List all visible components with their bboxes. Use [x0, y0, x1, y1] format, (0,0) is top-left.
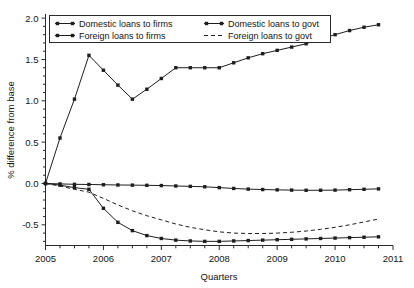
chart-legend: Domestic loans to firms Domestic loans t… — [50, 16, 331, 43]
y-tick-label: -0.5 — [22, 219, 38, 230]
series-marker-0 — [261, 52, 264, 55]
series-marker-1 — [131, 183, 134, 186]
series-marker-1 — [160, 184, 163, 187]
series-marker-1 — [203, 185, 206, 188]
series-marker-2 — [87, 188, 90, 191]
x-tick-label: 2010 — [325, 253, 346, 264]
series-marker-2 — [290, 238, 293, 241]
x-tick-label: 2011 — [383, 253, 403, 264]
series-marker-0 — [290, 45, 293, 48]
series-marker-2 — [174, 238, 177, 241]
legend-swatch-marker-0 — [71, 22, 74, 25]
chart-figure: 2.01.51.00.50.0-0.5 20052006200720082009… — [0, 0, 414, 288]
legend-swatch-marker-1 — [220, 22, 223, 25]
series-marker-0 — [218, 66, 221, 69]
series-marker-0 — [102, 69, 105, 72]
series-marker-2 — [261, 238, 264, 241]
series-marker-0 — [116, 83, 119, 86]
legend-item-domestic-loans-to-firms: Domestic loans to firms — [79, 19, 173, 29]
series-marker-1 — [319, 189, 322, 192]
y-tick-label: 0.5 — [25, 137, 38, 148]
series-marker-0 — [203, 66, 206, 69]
series-marker-2 — [145, 234, 148, 237]
series-marker-2 — [203, 240, 206, 243]
y-tick-label: 0.0 — [25, 178, 38, 189]
series-marker-0 — [73, 97, 76, 100]
legend-swatch-marker-1 — [205, 22, 208, 25]
series-marker-1 — [290, 188, 293, 191]
series-marker-1 — [232, 187, 235, 190]
series-marker-2 — [131, 229, 134, 232]
series-marker-0 — [174, 66, 177, 69]
series-marker-2 — [348, 236, 351, 239]
series-marker-2 — [362, 236, 365, 239]
series-marker-0 — [160, 77, 163, 80]
series-marker-1 — [73, 183, 76, 186]
x-tick-label: 2005 — [35, 253, 56, 264]
series-marker-2 — [160, 237, 163, 240]
series-marker-2 — [377, 235, 380, 238]
legend-swatch-marker-2 — [71, 34, 74, 37]
series-marker-0 — [333, 33, 336, 36]
series-marker-0 — [377, 23, 380, 26]
series-marker-1 — [116, 183, 119, 186]
x-tick-label: 2008 — [209, 253, 230, 264]
series-marker-0 — [348, 29, 351, 32]
x-tick-label: 2006 — [93, 253, 114, 264]
series-marker-0 — [362, 26, 365, 29]
legend-swatch-marker-2 — [56, 34, 59, 37]
y-axis-label: % difference from base — [5, 81, 16, 179]
series-marker-0 — [58, 136, 61, 139]
series-marker-0 — [145, 88, 148, 91]
series-marker-2 — [333, 236, 336, 239]
y-tick-label: 1.5 — [25, 54, 38, 65]
series-marker-1 — [275, 188, 278, 191]
legend-item-foreign-loans-to-govt: Foreign loans to govt — [228, 31, 313, 41]
series-marker-1 — [304, 189, 307, 192]
legend-item-foreign-loans-to-firms: Foreign loans to firms — [79, 31, 166, 41]
series-marker-1 — [174, 184, 177, 187]
series-marker-1 — [218, 186, 221, 189]
series-marker-1 — [333, 188, 336, 191]
series-marker-2 — [232, 239, 235, 242]
series-marker-1 — [261, 188, 264, 191]
chart-background — [0, 0, 414, 288]
series-marker-1 — [377, 187, 380, 190]
series-marker-0 — [189, 66, 192, 69]
series-marker-2 — [247, 239, 250, 242]
series-marker-2 — [116, 221, 119, 224]
x-tick-label: 2007 — [151, 253, 172, 264]
series-marker-1 — [362, 188, 365, 191]
legend-swatch-marker-0 — [56, 22, 59, 25]
series-marker-1 — [145, 184, 148, 187]
y-tick-label: 1.0 — [25, 95, 38, 106]
series-marker-2 — [275, 238, 278, 241]
series-marker-2 — [218, 240, 221, 243]
series-marker-0 — [87, 54, 90, 57]
x-axis-label: Quarters — [201, 271, 238, 282]
series-marker-1 — [348, 188, 351, 191]
series-marker-1 — [102, 183, 105, 186]
series-marker-0 — [131, 97, 134, 100]
legend-item-domestic-loans-to-govt: Domestic loans to govt — [228, 19, 320, 29]
series-marker-2 — [189, 239, 192, 242]
series-marker-1 — [87, 183, 90, 186]
x-tick-label: 2009 — [267, 253, 288, 264]
series-marker-0 — [232, 61, 235, 64]
series-marker-2 — [304, 237, 307, 240]
series-marker-1 — [247, 187, 250, 190]
series-marker-0 — [275, 49, 278, 52]
series-marker-0 — [247, 56, 250, 59]
series-marker-2 — [319, 237, 322, 240]
series-marker-1 — [189, 185, 192, 188]
series-marker-2 — [102, 207, 105, 210]
y-tick-label: 2.0 — [25, 13, 38, 24]
